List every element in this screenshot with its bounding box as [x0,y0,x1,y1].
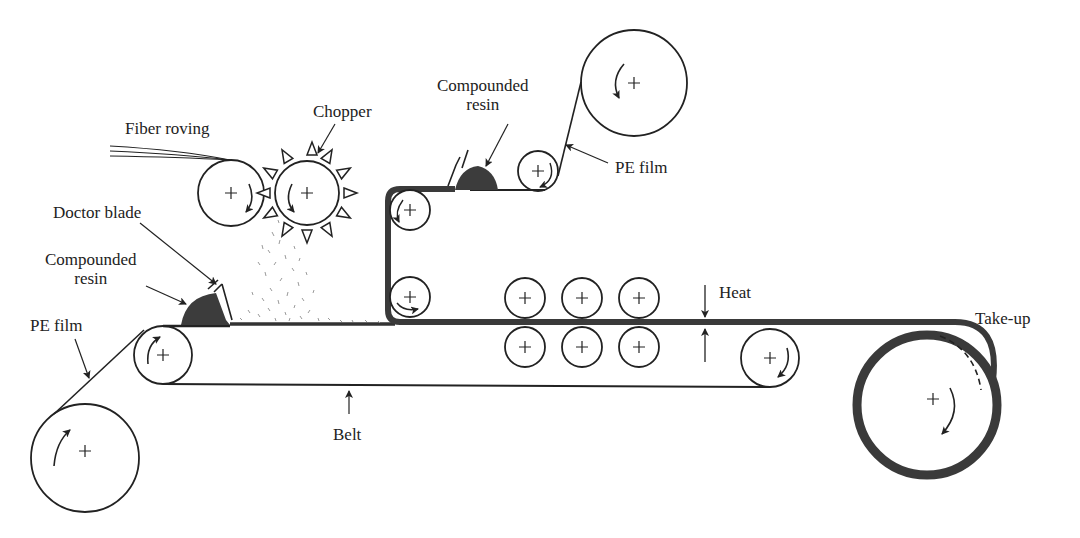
label-heat: Heat [719,283,751,302]
fiber-feed-roller [198,160,264,226]
label-line: Compounded [45,250,137,269]
take-up-roll [857,335,997,475]
guide-rollers [390,190,430,317]
label-pe-film-upper: PE film [615,158,667,177]
smc-sheet [388,189,994,380]
label-line: resin [45,269,137,288]
lower-film-supply-roll [31,404,139,512]
label-line: resin [437,95,529,114]
lower-resin-box [181,280,232,325]
label-doctor-blade: Doctor blade [53,203,141,222]
label-compounded-resin-upper: Compounded resin [437,76,529,114]
chopper-wheel [257,142,357,243]
label-belt: Belt [333,425,361,444]
belt [134,326,799,387]
label-fiber-roving: Fiber roving [125,119,210,138]
lower-pe-film [54,330,144,414]
upper-film-roller [518,151,558,191]
label-pe-film-lower: PE film [30,316,82,335]
upper-resin-box [448,150,498,190]
label-take-up: Take-up [975,309,1030,328]
fiber-roving [110,146,230,160]
label-chopper: Chopper [313,102,372,121]
upper-pe-film [558,82,581,176]
smc-process-diagram: Fiber roving Chopper Doctor blade Compou… [0,0,1080,538]
upper-film-supply-roll [581,30,687,136]
label-compounded-resin-lower: Compounded resin [45,250,137,288]
label-line: Compounded [437,76,529,95]
